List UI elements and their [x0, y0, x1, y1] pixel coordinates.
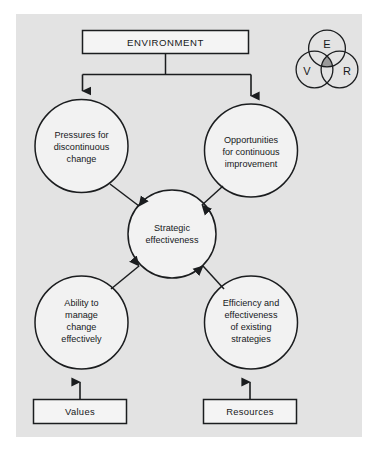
- resources-box-label: Resources: [226, 406, 274, 417]
- circle-center-line-1: Strategic: [154, 223, 190, 233]
- strategic-effectiveness-diagram: ENVIRONMENT Pressures for discontinuous …: [0, 0, 379, 452]
- circle-pressures-line-3: change: [67, 154, 97, 164]
- circle-ability-line-2: manage: [65, 310, 98, 320]
- circle-ability-line-1: Ability to: [64, 298, 98, 308]
- circle-efficiency-line-2: effectiveness: [225, 310, 278, 320]
- circle-pressures-line-1: Pressures for: [54, 130, 108, 140]
- circle-opportunities-line-3: improvement: [225, 159, 278, 169]
- circle-efficiency-line-1: Efficiency and: [223, 298, 279, 308]
- venn-label-e: E: [323, 38, 330, 50]
- circle-center-line-2: effectiveness: [146, 235, 199, 245]
- circle-ability-line-4: effectively: [61, 334, 102, 344]
- values-box-label: Values: [65, 406, 95, 417]
- circle-opportunities-line-2: for continuous: [222, 147, 280, 157]
- circle-strategic-effectiveness: [128, 190, 216, 278]
- circle-efficiency-line-4: strategies: [231, 334, 271, 344]
- venn-label-r: R: [343, 65, 351, 77]
- venn-label-v: V: [303, 65, 311, 77]
- circle-efficiency-line-3: of existing: [231, 322, 272, 332]
- diagram-figure: ENVIRONMENT Pressures for discontinuous …: [0, 0, 379, 452]
- circle-pressures-line-2: discontinuous: [54, 142, 110, 152]
- circle-ability-line-3: change: [67, 322, 97, 332]
- circle-opportunities-line-1: Opportunities: [224, 135, 279, 145]
- environment-box-label: ENVIRONMENT: [127, 37, 204, 48]
